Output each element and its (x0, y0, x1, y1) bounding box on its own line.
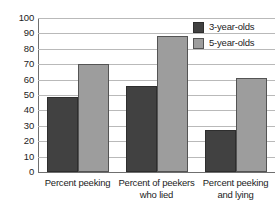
y-axis-tick-labels: 0102030405060708090100 (0, 0, 34, 210)
x-axis-label-line: who lied (111, 189, 202, 201)
y-axis-tick-label: 80 (24, 44, 34, 54)
gridline (38, 172, 275, 173)
legend-item: 5-year-olds (193, 37, 254, 49)
y-axis-tick-label: 50 (24, 90, 34, 100)
bar (236, 78, 267, 172)
bar-chart: 0102030405060708090100 Percent peekingPe… (0, 0, 280, 210)
legend-item: 3-year-olds (193, 21, 254, 33)
y-axis-tick-label: 10 (24, 152, 34, 162)
legend: 3-year-olds 5-year-olds (193, 21, 254, 49)
x-axis-category-label: Percent peekingand lying (190, 177, 280, 200)
y-axis-tick-label: 20 (24, 136, 34, 146)
legend-swatch-icon (193, 22, 204, 33)
x-axis-category-label: Percent of peekerswho lied (111, 177, 202, 200)
bar (205, 130, 236, 172)
bar (78, 64, 109, 172)
bar (47, 97, 78, 172)
x-axis-category-label: Percent peeking (32, 177, 123, 189)
y-axis-tick-label: 90 (24, 28, 34, 38)
y-axis-tick-label: 0 (29, 167, 34, 177)
x-axis-label-line: Percent peeking (190, 177, 280, 189)
legend-label: 5-year-olds (209, 38, 254, 48)
y-axis-tick-label: 60 (24, 75, 34, 85)
y-axis-tick-label: 30 (24, 121, 34, 131)
x-axis-label-line: Percent of peekers (111, 177, 202, 189)
bar (126, 86, 157, 172)
y-axis-tick-label: 40 (24, 105, 34, 115)
bar (157, 36, 188, 172)
gridline (38, 18, 275, 19)
x-axis-label-line: Percent peeking (32, 177, 123, 189)
y-axis-tick-label: 70 (24, 59, 34, 69)
y-axis-tick-label: 100 (19, 13, 34, 23)
legend-swatch-icon (193, 38, 204, 49)
legend-label: 3-year-olds (209, 22, 254, 32)
x-axis-label-line: and lying (190, 189, 280, 201)
